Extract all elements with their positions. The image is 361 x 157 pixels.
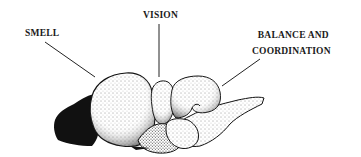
label-smell: SMELL	[25, 29, 59, 39]
brain-diagram	[0, 0, 361, 157]
label-balance-line-1: BALANCE AND	[258, 30, 329, 40]
balance-leader-line	[222, 59, 260, 86]
label-balance-and-coordination: BALANCE AND COORDINATION	[256, 31, 331, 56]
label-vision: VISION	[143, 11, 178, 21]
label-balance-line-2: COORDINATION	[252, 47, 331, 57]
smell-leader-line	[45, 42, 95, 77]
